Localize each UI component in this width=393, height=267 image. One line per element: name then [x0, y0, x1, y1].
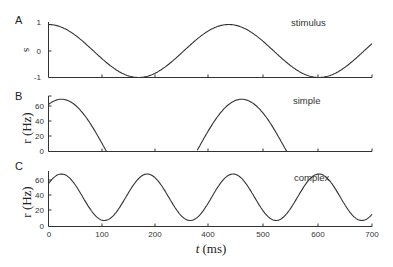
panel-b: B 60 40 20 0 r (Hz) simple — [15, 90, 372, 156]
trace-label-simple: simple — [293, 95, 320, 106]
ytick-label: 20 — [35, 206, 44, 215]
stimulus-curve — [49, 25, 373, 78]
xtick-label: 100 — [95, 230, 109, 239]
ytick-label: -1 — [34, 73, 42, 82]
ytick-label: 40 — [35, 117, 44, 126]
ytick-label: 0 — [40, 147, 45, 156]
panel-letter-c: C — [15, 160, 23, 172]
xtick-label: 700 — [365, 230, 379, 239]
panel-c: C 60 40 20 0 r (Hz) complex 0 100 200 40… — [15, 160, 379, 256]
ytick-label: 40 — [35, 191, 44, 200]
y-axis-title-c: r (Hz) — [19, 186, 34, 217]
ytick-label: 0 — [40, 222, 45, 231]
x-axis-title: t (ms) — [196, 241, 227, 256]
xtick-label: 200 — [148, 230, 162, 239]
y-axis-title-b: r (Hz) — [19, 112, 34, 143]
ytick-label: 1 — [37, 18, 42, 27]
axes-b — [49, 96, 373, 152]
xtick-label: 400 — [201, 230, 215, 239]
simple-cell-curve — [49, 99, 288, 151]
x-axis-title-unit: (ms) — [199, 241, 226, 256]
xtick-label: 600 — [311, 230, 325, 239]
panel-letter-a: A — [15, 14, 23, 26]
ytick-label: 0 — [37, 47, 42, 56]
figure: A 1 0 -1 s stimulus B 60 40 20 0 r (Hz) … — [0, 0, 393, 267]
x-tick-labels: 0 100 200 400 500 600 700 — [47, 230, 379, 239]
xtick-label: 500 — [256, 230, 270, 239]
trace-label-stimulus: stimulus — [291, 17, 326, 28]
y-axis-title-a: s — [22, 48, 34, 52]
trace-label-complex: complex — [294, 172, 330, 183]
ytick-label: 60 — [35, 102, 44, 111]
panel-letter-b: B — [15, 90, 22, 102]
ytick-label: 20 — [35, 132, 44, 141]
panel-a: A 1 0 -1 s stimulus — [15, 14, 372, 82]
xtick-label: 0 — [47, 230, 52, 239]
ytick-label: 60 — [35, 176, 44, 185]
